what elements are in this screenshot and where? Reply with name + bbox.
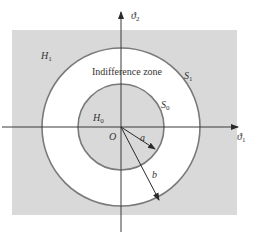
radius-b-label: b	[152, 170, 157, 180]
s1-boundary-label: S1	[184, 71, 193, 82]
s0-boundary-label: S0	[161, 100, 170, 111]
hypothesis-diagram	[0, 0, 255, 241]
origin-label: O	[109, 132, 116, 142]
x-axis-label: ϑ1	[237, 132, 245, 143]
radius-a-label: a	[140, 133, 145, 143]
y-axis-label: ϑ2	[131, 11, 139, 22]
h0-region-label: H0	[93, 113, 104, 124]
h1-region-label: H1	[41, 51, 52, 62]
indifference-zone-label: Indifference zone	[92, 67, 162, 77]
